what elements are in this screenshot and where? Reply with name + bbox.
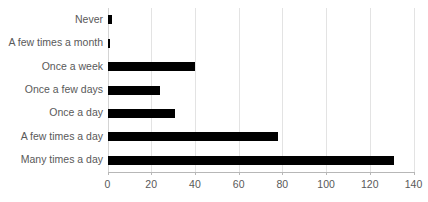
- category-label: Once a week: [42, 61, 103, 72]
- category-label: Once a few days: [25, 84, 103, 95]
- bar: [108, 62, 195, 71]
- tick-label: 0: [88, 178, 128, 190]
- bar: [108, 39, 110, 48]
- tick-mark-100: [326, 172, 327, 175]
- value-axis-line: [108, 172, 414, 173]
- category-label: Many times a day: [21, 154, 103, 165]
- tick-mark-60: [239, 172, 240, 175]
- category-axis-labels: NeverA few times a monthOnce a weekOnce …: [0, 0, 103, 202]
- bar: [108, 156, 394, 165]
- tick-label: 100: [306, 178, 346, 190]
- tick-mark-80: [282, 172, 283, 175]
- tick-label: 40: [175, 178, 215, 190]
- category-label: A few times a day: [21, 131, 103, 142]
- gridline-60: [239, 8, 240, 172]
- category-label: Never: [75, 14, 103, 25]
- category-label: A few times a month: [8, 37, 103, 48]
- tick-mark-0: [108, 172, 109, 175]
- gridline-100: [326, 8, 327, 172]
- tick-mark-20: [151, 172, 152, 175]
- bar: [108, 132, 278, 141]
- tick-mark-40: [195, 172, 196, 175]
- bar: [108, 109, 176, 118]
- bar: [108, 86, 160, 95]
- gridline-80: [282, 8, 283, 172]
- bar: [108, 15, 112, 24]
- tick-label: 120: [350, 178, 390, 190]
- tick-label: 60: [219, 178, 259, 190]
- tick-label: 80: [262, 178, 302, 190]
- bar-chart: NeverA few times a monthOnce a weekOnce …: [0, 0, 428, 202]
- gridline-40: [195, 8, 196, 172]
- tick-mark-140: [414, 172, 415, 175]
- category-label: Once a day: [49, 107, 103, 118]
- plot-area: [108, 8, 414, 172]
- tick-mark-120: [370, 172, 371, 175]
- gridline-140: [414, 8, 415, 172]
- gridline-120: [370, 8, 371, 172]
- tick-label: 140: [394, 178, 428, 190]
- tick-label: 20: [131, 178, 171, 190]
